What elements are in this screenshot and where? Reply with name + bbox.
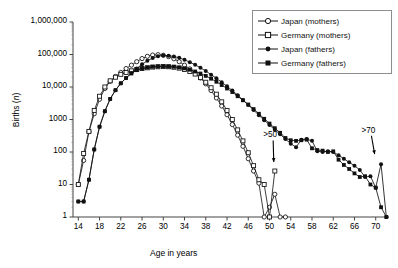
legend-label: Germany (mothers) [279, 31, 350, 40]
series-japan-fathers [76, 54, 388, 219]
y-axis-tick-label: 1000 [49, 114, 67, 123]
y-axis-title-suffix: ) [11, 93, 21, 96]
y-axis-tick-label: 10,000 [42, 81, 67, 90]
series-germany-mothers [76, 65, 277, 219]
y-axis-tick-label: 10 [58, 179, 67, 188]
x-axis-title: Age in years [150, 248, 197, 258]
legend-label: Germany (fathers) [279, 59, 346, 68]
legend-marker-filled-square-icon [257, 58, 279, 68]
legend-label: Japan (fathers) [279, 45, 335, 54]
y-axis-title-italic: n [11, 96, 21, 101]
x-axis-tick-label: 70 [364, 222, 388, 231]
annotation-arrow-icon [272, 140, 276, 161]
y-axis-tick-label: 100 [53, 146, 67, 155]
chart-annotation: >70 [361, 126, 375, 135]
y-axis-tick-label: 1,000,000 [31, 16, 67, 25]
legend-marker-filled-circle-icon [257, 44, 279, 54]
series-japan-mothers [76, 53, 287, 220]
legend-item: Japan (fathers) [257, 42, 387, 56]
legend-label: Japan (mothers) [279, 17, 339, 26]
y-axis-title: Births (n) [11, 80, 21, 140]
legend-marker-open-square-icon [257, 30, 279, 40]
legend-item: Germany (fathers) [257, 56, 387, 70]
legend-item: Japan (mothers) [257, 14, 387, 28]
chart-legend: Japan (mothers) Germany (mothers) Japan … [252, 10, 392, 74]
legend-item: Germany (mothers) [257, 28, 387, 42]
series-germany-fathers [76, 64, 388, 219]
y-axis-tick-label: 1 [62, 211, 67, 220]
y-axis-title-prefix: Births ( [11, 100, 21, 127]
chart-figure: Births (n) Age in years Japan (mothers) … [0, 0, 398, 268]
annotation-arrow-icon [371, 136, 375, 154]
chart-annotation: >50 [263, 130, 277, 139]
y-axis-tick-label: 100,000 [37, 49, 67, 58]
legend-marker-open-circle-icon [257, 16, 279, 26]
